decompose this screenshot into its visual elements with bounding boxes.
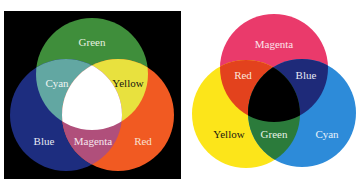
subtractive-venn-svg: Magenta Red Blue Yellow Green Cyan bbox=[184, 0, 359, 184]
additive-color-diagram: Green Cyan Yellow Blue Magenta Red bbox=[0, 0, 184, 184]
additive-venn-svg: Green Cyan Yellow Blue Magenta Red bbox=[0, 0, 184, 184]
label-magenta: Magenta bbox=[255, 38, 294, 50]
subtractive-color-diagram: Magenta Red Blue Yellow Green Cyan bbox=[184, 0, 359, 184]
label-magenta: Magenta bbox=[74, 135, 113, 147]
label-cyan: Cyan bbox=[45, 77, 69, 89]
label-red: Red bbox=[234, 69, 252, 81]
label-yellow: Yellow bbox=[213, 128, 244, 140]
label-yellow: Yellow bbox=[112, 77, 143, 89]
label-red: Red bbox=[134, 135, 152, 147]
label-green: Green bbox=[261, 128, 288, 140]
label-blue: Blue bbox=[296, 69, 317, 81]
label-cyan: Cyan bbox=[315, 128, 339, 140]
label-green: Green bbox=[79, 36, 106, 48]
label-blue: Blue bbox=[34, 135, 55, 147]
